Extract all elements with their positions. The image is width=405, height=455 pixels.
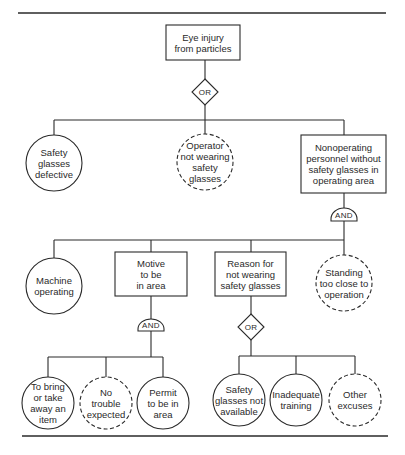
or-gate-label: OR bbox=[238, 321, 264, 333]
node-label-n4: Machine operating bbox=[26, 258, 82, 314]
node-label-n7: Standing too close to operation bbox=[316, 255, 372, 311]
and-gate-label: AND bbox=[138, 320, 164, 331]
node-label-n9: No trouble expected bbox=[80, 377, 132, 429]
or-gate-label: OR bbox=[192, 86, 218, 98]
node-label-n11: Safety glasses not available bbox=[211, 374, 267, 426]
node-label-n2: Operator not wearing safety glasses bbox=[175, 134, 235, 190]
node-label-n13: Other excuses bbox=[329, 374, 381, 426]
node-label-n6: Reason for not wearing safety glasses bbox=[215, 252, 286, 296]
node-label-n1: Safety glasses defective bbox=[26, 135, 82, 191]
node-label-n3: Nonoperating personnel without safety gl… bbox=[301, 135, 386, 193]
top-event-label: Eye injury from particles bbox=[166, 25, 240, 60]
node-label-n10: Permit to be in area bbox=[137, 377, 189, 429]
node-label-n8: To bring or take away an item bbox=[22, 377, 74, 429]
and-gate-label: AND bbox=[331, 210, 357, 221]
node-label-n5: Motive to be in area bbox=[115, 252, 187, 296]
node-label-n12: Inadequate training bbox=[268, 374, 324, 426]
